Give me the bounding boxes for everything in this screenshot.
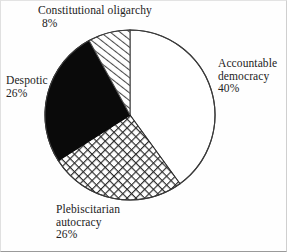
slice-label-text-line1: Accountable (218, 57, 277, 70)
slice-label-percent: 40% (218, 82, 277, 95)
slice-label-text-line2: democracy (218, 70, 277, 83)
slice-label-text-line1: Plebiscitarian (56, 203, 120, 216)
slice-label-text: Despotic (6, 74, 48, 87)
pie-slices (45, 30, 215, 200)
slice-label-percent: 8% (42, 17, 152, 30)
slice-label-plebiscitarian-autocracy: Plebiscitarian autocracy 26% (56, 203, 120, 241)
slice-label-text-line2: autocracy (56, 216, 120, 229)
pie-chart (0, 0, 287, 252)
slice-label-percent: 26% (56, 228, 120, 241)
slice-label-accountable-democracy: Accountable democracy 40% (218, 57, 277, 95)
slice-label-constitutional-oligarchy: Constitutional oligarchy 8% (38, 4, 152, 29)
slice-label-text: Constitutional oligarchy (38, 4, 152, 17)
slice-label-percent: 26% (6, 87, 48, 100)
slice-label-despotic: Despotic 26% (6, 74, 48, 99)
